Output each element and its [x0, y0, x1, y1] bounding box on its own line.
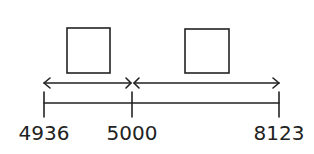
answer-box-2[interactable] [185, 29, 229, 73]
tick-label-1: 4936 [19, 121, 70, 145]
number-line-diagram: 4936 5000 8123 [0, 0, 314, 154]
tick-label-3: 8123 [254, 121, 305, 145]
number-line [44, 92, 279, 117]
answer-box-1[interactable] [67, 28, 110, 73]
tick-label-2: 5000 [107, 121, 158, 145]
jump-arrow-1 [44, 78, 131, 88]
jump-arrow-2 [134, 78, 279, 88]
